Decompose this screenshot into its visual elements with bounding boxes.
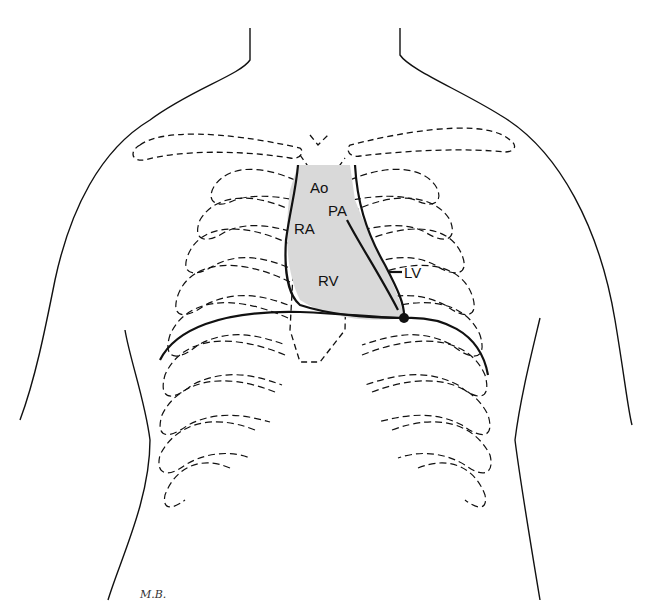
label-right-atrium: RA: [294, 221, 315, 236]
chest-outline-drawing: [0, 0, 648, 615]
label-pulmonary-artery: PA: [328, 203, 347, 218]
diaphragm-line: [160, 312, 488, 375]
heart-silhouette: [287, 165, 405, 320]
label-left-ventricle: LV: [404, 265, 421, 280]
chest-diagram: Ao PA RA RV LV M.B.: [0, 0, 648, 615]
clavicles: [133, 128, 515, 160]
label-aorta: Ao: [310, 180, 328, 195]
label-right-ventricle: RV: [318, 273, 339, 288]
artist-signature: M.B.: [140, 588, 166, 601]
